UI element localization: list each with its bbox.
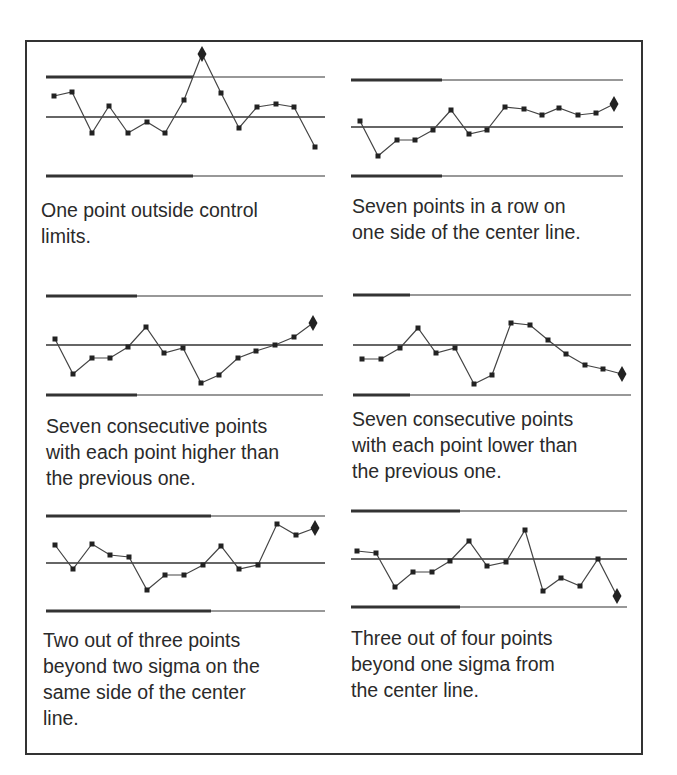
data-point-marker [393, 585, 398, 590]
caption-line: Seven consecutive points [352, 406, 577, 432]
data-point-marker [237, 567, 242, 572]
data-point-marker [90, 356, 95, 361]
data-point-marker [90, 131, 95, 136]
data-point-marker [472, 382, 477, 387]
data-point-marker [434, 351, 439, 356]
caption-line: the previous one. [46, 465, 279, 491]
caption-line: limits. [41, 223, 258, 249]
data-point-marker [236, 356, 241, 361]
chart-three-of-four-beyond-one-sigma [351, 511, 627, 607]
caption-seven-points-one-side: Seven points in a row on one side of the… [352, 193, 581, 245]
data-point-marker [182, 98, 187, 103]
chart-seven-points-decreasing [353, 295, 631, 395]
data-point-marker [523, 528, 528, 533]
data-point-marker [163, 573, 168, 578]
data-point-marker [127, 555, 132, 560]
caption-line: the center line. [351, 677, 555, 703]
caption-line: one side of the center line. [352, 219, 581, 245]
caption-line: with each point higher than [46, 439, 279, 465]
flagged-point-diamond-icon [610, 96, 619, 112]
chart-two-of-three-beyond-two-sigma [46, 516, 325, 611]
data-point-marker [217, 373, 222, 378]
caption-seven-points-increasing: Seven consecutive points with each point… [46, 413, 279, 491]
data-point-marker [416, 326, 421, 331]
data-point-marker [559, 576, 564, 581]
data-point-marker [126, 345, 131, 350]
data-point-marker [53, 543, 58, 548]
data-series-line [55, 323, 313, 383]
caption-three-of-four-beyond-one-sigma: Three out of four points beyond one sigm… [351, 625, 555, 703]
data-point-marker [379, 357, 384, 362]
data-point-marker [398, 346, 403, 351]
flagged-point-diamond-icon [311, 520, 320, 536]
data-point-marker [144, 325, 149, 330]
data-point-marker [313, 145, 318, 150]
data-point-marker [219, 91, 224, 96]
data-point-marker [145, 120, 150, 125]
data-point-marker [411, 570, 416, 575]
data-point-marker [594, 111, 599, 116]
caption-line: same side of the center [43, 679, 260, 705]
data-point-marker [557, 106, 562, 111]
data-point-marker [52, 94, 57, 99]
caption-line: Two out of three points [43, 627, 260, 653]
data-point-marker [292, 105, 297, 110]
data-point-marker [219, 544, 224, 549]
flagged-point-diamond-icon [309, 315, 318, 331]
data-point-marker [53, 337, 58, 342]
data-point-marker [430, 570, 435, 575]
data-point-marker [504, 560, 509, 565]
data-point-marker [564, 352, 569, 357]
data-point-marker [374, 551, 379, 556]
data-point-marker [145, 588, 150, 593]
data-point-marker [273, 343, 278, 348]
data-point-marker [546, 338, 551, 343]
data-point-marker [292, 335, 297, 340]
data-point-marker [541, 589, 546, 594]
data-point-marker [199, 381, 204, 386]
data-point-marker [522, 107, 527, 112]
data-point-marker [90, 542, 95, 547]
data-point-marker [237, 126, 242, 131]
data-point-marker [275, 522, 280, 527]
data-point-marker [503, 105, 508, 110]
data-point-marker [540, 113, 545, 118]
data-point-marker [583, 363, 588, 368]
caption-line: Seven points in a row on [352, 193, 581, 219]
data-point-marker [485, 564, 490, 569]
caption-line: line. [43, 705, 260, 731]
caption-line: with each point lower than [352, 432, 577, 458]
data-point-marker [376, 154, 381, 159]
data-point-marker [449, 108, 454, 113]
data-point-marker [254, 349, 259, 354]
data-point-marker [413, 138, 418, 143]
data-point-marker [162, 351, 167, 356]
flagged-point-diamond-icon [618, 366, 627, 382]
chart-one-point-outside-limits [46, 46, 325, 176]
caption-line: Three out of four points [351, 625, 555, 651]
caption-one-point-outside-limits: One point outside control limits. [41, 197, 258, 249]
data-point-marker [596, 557, 601, 562]
data-point-marker [108, 356, 113, 361]
data-point-marker [360, 357, 365, 362]
data-point-marker [163, 131, 168, 136]
data-point-marker [256, 563, 261, 568]
data-point-marker [453, 346, 458, 351]
chart-seven-points-increasing [46, 296, 323, 395]
data-point-marker [395, 138, 400, 143]
chart-seven-points-one-side [351, 80, 623, 176]
data-point-marker [182, 573, 187, 578]
caption-line: beyond two sigma on the [43, 653, 260, 679]
data-point-marker [467, 539, 472, 544]
data-point-marker [71, 372, 76, 377]
data-point-marker [490, 373, 495, 378]
caption-two-of-three-beyond-two-sigma: Two out of three points beyond two sigma… [43, 627, 260, 731]
data-point-marker [70, 90, 75, 95]
data-point-marker [528, 323, 533, 328]
data-series-line [55, 524, 315, 590]
data-point-marker [431, 128, 436, 133]
data-point-marker [274, 102, 279, 107]
data-point-marker [578, 584, 583, 589]
data-point-marker [576, 113, 581, 118]
caption-line: One point outside control [41, 197, 258, 223]
